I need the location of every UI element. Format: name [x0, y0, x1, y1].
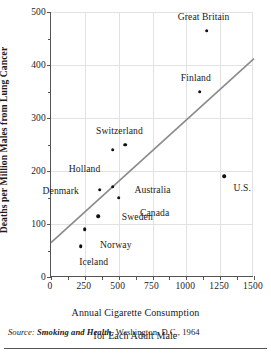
x-tick-label: 0: [48, 281, 53, 291]
data-point: [117, 196, 121, 200]
source-caption: Source: Smoking and Health, Washington, …: [8, 327, 263, 337]
y-tick-label: 0: [41, 272, 46, 282]
y-tick-label: 100: [31, 219, 46, 229]
data-point: [198, 90, 202, 94]
data-point: [222, 175, 226, 179]
data-point: [83, 228, 87, 232]
y-tick-label: 500: [31, 7, 46, 17]
x-tick-minor: [169, 277, 170, 280]
x-tick-minor: [68, 277, 69, 280]
y-tick: [47, 277, 51, 278]
source-prefix: Source:: [8, 327, 35, 337]
data-point: [98, 188, 102, 192]
data-point: [124, 143, 128, 147]
x-axis-title-line-1: Annual Cigarette Consumption: [0, 307, 271, 319]
x-tick-label: 1500: [243, 281, 263, 291]
y-axis-title: Deaths per Million Males from Lung Cance…: [0, 47, 9, 234]
data-point: [111, 185, 115, 189]
data-point-label: Denmark: [43, 184, 79, 195]
scatter-plot-figure: 0250500750100012501500 0100200300400500 …: [0, 0, 271, 353]
data-point-label: Holland: [69, 162, 101, 173]
x-tick-label: 750: [144, 281, 159, 291]
y-tick-label: 300: [31, 113, 46, 123]
data-point-label: Norway: [100, 239, 132, 250]
plot-area: [50, 12, 253, 277]
data-point: [205, 29, 209, 33]
data-point: [79, 244, 83, 248]
y-tick-label: 400: [31, 60, 46, 70]
x-tick-label: 1000: [175, 281, 195, 291]
x-tick: [254, 276, 255, 280]
data-point-label: Finland: [181, 71, 211, 82]
data-point-label: Great Britain: [178, 10, 230, 21]
data-point-label: U.S.: [233, 182, 250, 193]
x-axis-title: Annual Cigarette Consumption for Each Ad…: [0, 295, 271, 353]
x-tick-minor: [203, 277, 204, 280]
x-tick-minor: [102, 277, 103, 280]
source-work-title: Smoking and Health: [37, 327, 111, 337]
y-tick-label: 200: [31, 166, 46, 176]
bottom-rule: [4, 348, 267, 349]
data-point-label: Switzerland: [96, 124, 143, 135]
x-tick-minor: [136, 277, 137, 280]
data-point-label: Canada: [140, 206, 169, 217]
x-tick-label: 250: [76, 281, 91, 291]
data-point: [111, 148, 115, 152]
source-rest: , Washington, D.C., 1964: [111, 327, 199, 337]
data-point: [97, 214, 101, 218]
data-point-label: Iceland: [79, 256, 108, 267]
x-tick-minor: [237, 277, 238, 280]
x-tick-label: 1250: [209, 281, 229, 291]
x-tick-label: 500: [110, 281, 125, 291]
trend-line: [51, 12, 254, 277]
data-point-label: Australia: [135, 183, 171, 194]
